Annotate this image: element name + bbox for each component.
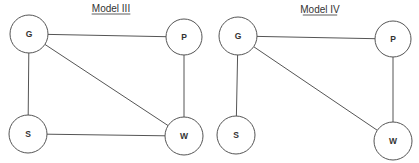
node-g: G (10, 15, 48, 53)
node-p: P (166, 19, 202, 55)
node-label: W (180, 131, 189, 141)
edge-g-p (48, 34, 166, 36)
node-label: G (235, 31, 242, 41)
node-s: S (217, 116, 255, 154)
edge-g-p (257, 36, 375, 38)
model-iv-edges (236, 36, 393, 130)
edge-g-w (45, 44, 168, 125)
edge-g-w (254, 47, 378, 131)
node-g: G (219, 17, 257, 55)
node-w: W (165, 117, 203, 155)
node-p: P (375, 21, 411, 57)
node-w: W (374, 122, 412, 160)
node-label: S (25, 129, 31, 139)
model-iii-edges (28, 34, 184, 135)
node-label: P (390, 34, 396, 44)
node-label: W (389, 136, 398, 146)
model-iv-nodes: GPSW (217, 17, 412, 160)
node-s: S (9, 115, 47, 153)
model-iv-diagram: Model IV GPSW (217, 4, 412, 160)
model-iv-title: Model IV (300, 4, 340, 15)
model-diagrams-canvas: Model III GPSW Model IV GPSW (0, 0, 419, 163)
node-label: S (233, 130, 239, 140)
edge-g-s (236, 55, 237, 116)
node-label: P (181, 32, 187, 42)
model-iii-title: Model III (92, 3, 130, 14)
node-label: G (26, 29, 33, 39)
edge-s-w (47, 134, 165, 136)
edge-g-s (28, 53, 29, 115)
model-iii-diagram: Model III GPSW (9, 3, 203, 155)
